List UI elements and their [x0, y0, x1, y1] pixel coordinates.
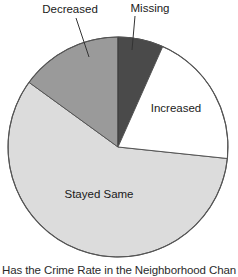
figure-caption: Has the Crime Rate in the Neighborhood C… — [0, 263, 238, 277]
pie-label-decreased: Decreased — [42, 3, 98, 15]
pie-label-missing: Missing — [131, 2, 170, 14]
pie-chart-canvas: Decreased Missing Increased Stayed Same — [0, 0, 238, 277]
pie-label-increased: Increased — [151, 102, 202, 114]
pie-chart-figure: Decreased Missing Increased Stayed Same … — [0, 0, 238, 277]
pie-label-stayed-same: Stayed Same — [64, 188, 133, 200]
